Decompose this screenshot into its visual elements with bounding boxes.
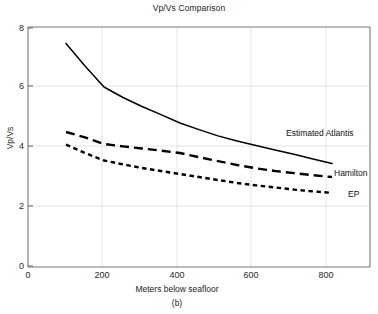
gridlines: [28, 27, 370, 267]
xtick-label-800: 800: [311, 270, 341, 280]
ytick-label-6: 6: [8, 81, 24, 91]
series-label-ep: EP: [348, 189, 359, 199]
xtick-label-600: 600: [236, 270, 266, 280]
plot-frame: [28, 27, 370, 267]
panel-label: (b): [28, 298, 326, 308]
figure-container: Vp/Vs Comparison: [0, 0, 378, 314]
xtick-label-400: 400: [162, 270, 192, 280]
y-tick-marks: [28, 28, 33, 266]
ytick-label-8: 8: [8, 23, 24, 33]
series-label-hamilton: Hamilton: [334, 168, 368, 178]
plot-canvas: [0, 0, 378, 314]
y-axis-title: Vp/Vs: [5, 118, 15, 158]
xtick-label-200: 200: [87, 270, 117, 280]
series-line-ep: [66, 145, 332, 193]
x-axis-title: Meters below seafloor: [28, 284, 326, 294]
ytick-label-2: 2: [8, 201, 24, 211]
xtick-label-0: 0: [13, 270, 43, 280]
series-label-estimated-atlantis: Estimated Atlantis: [286, 128, 354, 138]
